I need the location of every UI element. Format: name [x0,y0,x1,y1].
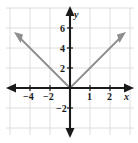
coordinate-plane-svg [0,0,138,143]
x-axis-left-arrowhead [6,84,16,93]
x-tick-label-neg2: −2 [43,92,54,102]
y-tick-label-pos2: 2 [60,64,65,74]
left-ray-line [14,32,70,88]
right-ray-arrowhead [117,32,126,43]
x-tick-label-pos1: 1 [87,92,92,102]
y-axis-label: y [74,10,78,20]
x-axis-label: x [124,92,129,102]
y-tick-label-pos4: 4 [60,44,65,54]
x-tick-label-pos2: 2 [107,92,112,102]
y-axis-bottom-arrowhead [66,128,75,138]
y-tick-label-neg2: −2 [56,104,67,114]
right-ray-line [70,32,126,88]
left-ray-arrowhead [14,32,23,43]
y-axis [66,6,75,138]
absolute-value-graph-figure: −4 −2 1 2 6 4 2 −2 x y [0,0,138,143]
y-tick-label-pos6: 6 [60,24,65,34]
x-tick-label-neg4: −4 [23,92,34,102]
